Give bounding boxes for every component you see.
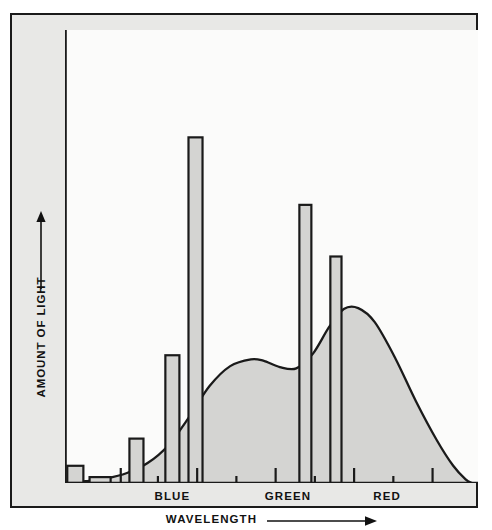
x-axis-title: WAVELENGTH [166, 513, 257, 525]
emission-bar [330, 257, 341, 484]
figure-frame: AMOUNT OF LIGHT BLUEGREENRED WAVELENGTH [10, 13, 478, 508]
plot-area [65, 30, 478, 483]
x-tick-label-blue: BLUE [155, 490, 191, 502]
continuous-spectrum-area [65, 307, 472, 483]
emission-bar [129, 439, 143, 483]
x-tick-label-green: GREEN [265, 490, 311, 502]
x-axis-title-row: WAVELENGTH [65, 509, 478, 529]
emission-bar [188, 137, 202, 483]
emission-bar [299, 205, 311, 483]
emission-bar [165, 355, 179, 483]
x-tick-label-red: RED [373, 490, 401, 502]
x-axis-tick-labels: BLUEGREENRED [65, 490, 478, 508]
spectrum-area-fill [65, 307, 472, 483]
y-axis-title: AMOUNT OF LIGHT [35, 242, 47, 432]
arrow-right-icon [267, 513, 377, 525]
y-axis-label-group: AMOUNT OF LIGHT [26, 211, 54, 471]
emission-bar [67, 466, 83, 483]
spectrum-chart [65, 30, 478, 483]
